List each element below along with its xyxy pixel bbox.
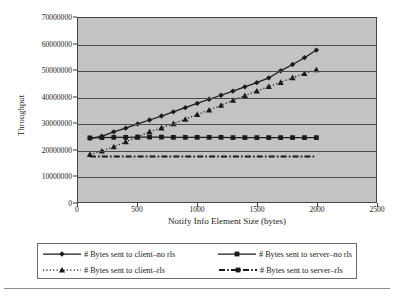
data-point-marker [254, 135, 259, 140]
legend-item: # Bytes sent to server–rls [218, 262, 343, 278]
data-point-marker [219, 135, 224, 140]
legend-item: # Bytes sent to server–no rls [217, 246, 352, 262]
y-tick-mark [73, 17, 77, 18]
data-point-marker [159, 135, 164, 140]
data-point-marker [183, 135, 188, 140]
data-point-marker [231, 135, 236, 140]
legend-row: # Bytes sent to client–rls # Bytes sent … [42, 262, 352, 278]
legend-key-dashdot-icon [218, 263, 258, 277]
data-point-marker [230, 88, 235, 93]
y-tick-label: 70000000 [42, 13, 72, 22]
legend-key-triangle-dotted-icon [42, 263, 82, 277]
data-point-marker [171, 109, 176, 114]
data-point-marker [159, 113, 164, 118]
y-tick-mark [73, 96, 77, 97]
data-point-marker [111, 129, 116, 134]
figure: Throughput 01000000020000000300000004000… [0, 0, 394, 299]
y-tick-label: 20000000 [42, 145, 72, 154]
data-point-marker [242, 84, 247, 89]
y-tick-label: 50000000 [42, 66, 72, 75]
x-tick-mark [197, 203, 198, 207]
data-point-marker [290, 62, 295, 67]
data-point-marker [195, 101, 200, 106]
y-tick-label: 60000000 [42, 39, 72, 48]
x-tick-mark [257, 203, 258, 207]
gridline [78, 98, 376, 99]
gridline [78, 71, 376, 72]
legend-key-square-solid-icon [217, 247, 257, 261]
data-point-marker [242, 135, 247, 140]
legend-label: # Bytes sent to client–rls [82, 266, 165, 275]
series [87, 47, 319, 141]
y-tick-mark [73, 149, 77, 150]
data-point-marker [254, 80, 259, 85]
x-tick-mark [317, 203, 318, 207]
x-axis-title: Notify Info Element Size (bytes) [77, 216, 377, 226]
y-tick-mark [73, 43, 77, 44]
legend-label: # Bytes sent to client–no rls [82, 250, 175, 259]
x-tick-mark [77, 203, 78, 207]
y-tick-mark [73, 176, 77, 177]
gridline [78, 124, 376, 125]
series [87, 67, 320, 157]
x-tick-mark [377, 203, 378, 207]
y-tick-mark [73, 70, 77, 71]
data-point-marker [194, 111, 200, 117]
y-tick-label: 30000000 [42, 119, 72, 128]
data-point-marker [147, 135, 152, 140]
data-point-marker [182, 116, 188, 122]
data-point-marker [183, 105, 188, 110]
data-point-marker [289, 75, 295, 81]
y-tick-mark [73, 123, 77, 124]
gridline [78, 45, 376, 46]
data-point-marker [111, 135, 116, 140]
y-tick-label: 0 [68, 199, 72, 208]
data-point-marker [207, 135, 212, 140]
data-point-marker [314, 135, 319, 140]
data-point-marker [266, 135, 271, 140]
series-line [90, 70, 316, 155]
data-point-marker [99, 135, 104, 140]
legend-item: # Bytes sent to client–rls [42, 262, 218, 278]
gridline [78, 151, 376, 152]
plot-area [77, 17, 377, 203]
y-axis-tick-labels: 0100000002000000030000000400000005000000… [24, 17, 72, 203]
y-tick-label: 40000000 [42, 92, 72, 101]
data-point-marker [146, 129, 152, 135]
series [88, 135, 319, 141]
data-point-marker [195, 135, 200, 140]
data-point-marker [171, 135, 176, 140]
data-point-marker [302, 135, 307, 140]
legend-label: # Bytes sent to server–no rls [257, 250, 352, 259]
data-point-marker [147, 117, 152, 122]
data-point-marker [266, 75, 271, 80]
data-point-marker [88, 135, 93, 140]
y-tick-label: 10000000 [42, 172, 72, 181]
data-point-marker [290, 135, 295, 140]
legend-row: # Bytes sent to client–no rls # Bytes se… [42, 246, 352, 262]
x-tick-mark [137, 203, 138, 207]
data-point-marker [278, 135, 283, 140]
data-point-marker [254, 88, 260, 94]
legend: # Bytes sent to client–no rls # Bytes se… [37, 243, 357, 279]
bottom-rule [4, 288, 390, 289]
gridline [78, 177, 376, 178]
legend-key-diamond-solid-icon [42, 247, 82, 261]
series-layer [78, 18, 376, 202]
legend-item: # Bytes sent to client–no rls [42, 246, 217, 262]
chart: Throughput 01000000020000000300000004000… [0, 0, 394, 237]
data-point-marker [123, 125, 128, 130]
legend-label: # Bytes sent to server–rls [258, 266, 343, 275]
